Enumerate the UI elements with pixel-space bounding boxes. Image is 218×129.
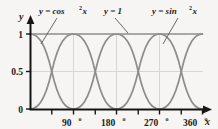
degree-symbol-360: o — [205, 116, 208, 122]
degree-symbol-270: o — [166, 116, 169, 122]
annotation-sin-squared-lhs: y = sin — [151, 6, 177, 16]
annotation-cos-squared-var: x — [82, 6, 88, 16]
gridlines — [30, 34, 203, 109]
y-tick-label-0-5: 0.5 — [11, 67, 23, 77]
annotation-sin-squared-var: x — [192, 6, 198, 16]
annotation-cos-squared-lhs: y = cos — [38, 6, 65, 16]
x-tick-label-270: 270 o — [144, 116, 169, 129]
x-tick-label-180-value: 180 — [101, 118, 116, 128]
leader-lines — [41, 18, 178, 44]
y-axis-arrowhead — [27, 15, 35, 24]
y-tick-label-0: 0 — [18, 105, 23, 115]
y-axis-label: y — [18, 11, 24, 22]
plot-svg: y x 1 0.5 0 90 o 180 o 270 o 360 o y = c… — [0, 0, 218, 129]
x-tick-label-90: 90 o — [62, 116, 82, 129]
leader-line-one — [115, 18, 128, 33]
annotation-sin-squared: y = sin 2 x — [151, 5, 198, 16]
annotation-cos-squared: y = cos 2 x — [38, 5, 88, 16]
x-tick-label-270-value: 270 — [144, 118, 159, 128]
trig-identity-plot: y x 1 0.5 0 90 o 180 o 270 o 360 o y = c… — [0, 0, 218, 129]
x-tick-label-90-value: 90 — [62, 118, 72, 128]
x-tick-label-360: 360 o — [183, 116, 208, 129]
degree-symbol-180: o — [123, 116, 126, 122]
y-tick-label-1: 1 — [18, 30, 23, 40]
annotation-y-equals-one: y = 1 — [103, 6, 122, 16]
x-tick-label-360-value: 360 — [183, 118, 198, 128]
x-tick-label-180: 180 o — [101, 116, 126, 129]
degree-symbol-90: o — [79, 116, 82, 122]
x-axis-arrowhead — [203, 106, 212, 114]
leader-line-cos — [41, 18, 57, 44]
